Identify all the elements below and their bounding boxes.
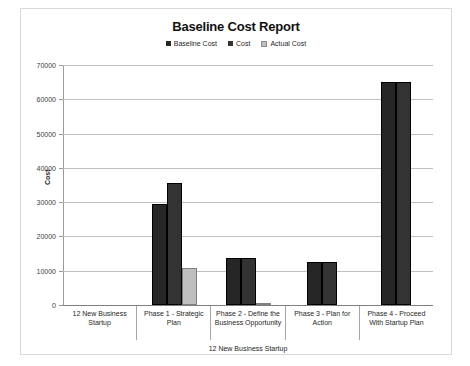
bar[interactable] xyxy=(167,183,182,305)
bar-group xyxy=(63,65,137,305)
bar[interactable] xyxy=(241,258,256,305)
y-axis-title: Cost xyxy=(44,169,51,185)
bar[interactable] xyxy=(152,204,167,305)
x-axis-title: 12 New Business Startup xyxy=(63,345,433,352)
y-axis-tick-label: 10000 xyxy=(37,267,56,274)
bar-series-group xyxy=(63,65,433,305)
y-axis-tick-label: 50000 xyxy=(37,130,56,137)
category-axis-labels: 12 New Business StartupPhase 1 - Strateg… xyxy=(63,305,433,340)
bar-group xyxy=(211,65,285,305)
plot-area: 700006000050000400003000020000100000 xyxy=(63,65,433,305)
y-axis-tick-label: 70000 xyxy=(37,62,56,69)
legend-label: Cost xyxy=(236,40,250,47)
y-axis-tick-label: 60000 xyxy=(37,96,56,103)
category-label: Phase 2 - Define the Business Opportunit… xyxy=(211,306,285,340)
chart-container: Baseline Cost Report Baseline Cost Cost … xyxy=(20,8,452,355)
category-label: Phase 3 - Plan for Action xyxy=(286,306,360,340)
legend-label: Actual Cost xyxy=(270,40,306,47)
legend-item-baseline-cost[interactable]: Baseline Cost xyxy=(166,40,217,47)
category-label: 12 New Business Startup xyxy=(63,306,137,340)
bar-group xyxy=(285,65,359,305)
category-label: Phase 1 - Strategic Plan xyxy=(137,306,211,340)
bar[interactable] xyxy=(307,262,322,305)
y-axis-tick-label: 20000 xyxy=(37,233,56,240)
legend-swatch-icon xyxy=(228,41,233,46)
chart-legend: Baseline Cost Cost Actual Cost xyxy=(21,40,451,47)
bar[interactable] xyxy=(226,258,241,305)
y-axis-tick-label: 30000 xyxy=(37,199,56,206)
bar[interactable] xyxy=(396,82,411,305)
legend-item-cost[interactable]: Cost xyxy=(228,40,250,47)
bar[interactable] xyxy=(381,82,396,305)
category-label: Phase 4 - Proceed With Startup Plan xyxy=(360,306,433,340)
bar[interactable] xyxy=(322,262,337,305)
legend-item-actual-cost[interactable]: Actual Cost xyxy=(261,40,306,47)
y-axis-tick-label: 40000 xyxy=(37,164,56,171)
legend-swatch-icon xyxy=(166,41,171,46)
bar-group xyxy=(359,65,433,305)
y-axis-tick-label: 0 xyxy=(52,302,56,309)
legend-label: Baseline Cost xyxy=(174,40,217,47)
bar-group xyxy=(137,65,211,305)
chart-title: Baseline Cost Report xyxy=(21,19,451,34)
bar[interactable] xyxy=(182,268,197,305)
legend-swatch-icon xyxy=(261,41,267,47)
